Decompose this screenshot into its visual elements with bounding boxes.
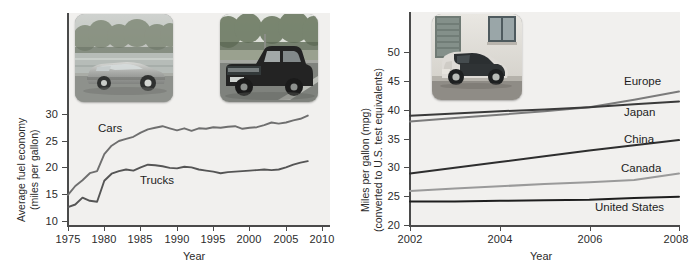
series-label-japan: Japan [624, 106, 655, 118]
series-label-trucks: Trucks [140, 174, 174, 186]
series-lines-left [0, 0, 340, 271]
series-label-united-states: United States [595, 201, 664, 213]
series-label-china: China [624, 133, 654, 145]
series-label-canada: Canada [621, 162, 661, 174]
series-label-europe: Europe [624, 75, 661, 87]
series-line-canada [410, 174, 679, 191]
series-line-trucks [68, 161, 308, 207]
chart-panel-us-fleet: 30 25 20 15 10 1975 1980 1985 1990 1995 … [0, 0, 340, 271]
chart-panel-international: 50 45 40 35 30 25 20 2002 2004 2006 2008… [340, 0, 680, 271]
series-label-cars: Cars [98, 122, 122, 134]
